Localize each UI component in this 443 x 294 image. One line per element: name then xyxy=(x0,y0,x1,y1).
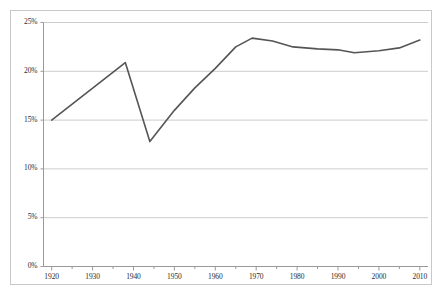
y-axis-tick-label: 10% xyxy=(8,164,38,172)
chart-plot-area xyxy=(0,0,443,294)
x-axis-tick-label: 1980 xyxy=(280,273,314,281)
gridlines-group xyxy=(44,23,429,267)
x-axis-tick-label: 1960 xyxy=(198,273,232,281)
series-line-1 xyxy=(52,38,420,141)
y-axis-tick-label: 5% xyxy=(8,213,38,221)
x-axis-tick-label: 2000 xyxy=(362,273,396,281)
chart-container: 0%5%10%15%20%25% 19201930194019501960197… xyxy=(0,0,443,294)
x-axis-tick-label: 1970 xyxy=(239,273,273,281)
x-axis-tick-label: 1950 xyxy=(157,273,191,281)
x-axis-tick-label: 1990 xyxy=(321,273,355,281)
axis-lines-group xyxy=(44,23,429,267)
y-axis-tick-label: 25% xyxy=(8,18,38,26)
x-axis-tick-label: 1920 xyxy=(35,273,69,281)
x-axis-tick-label: 1940 xyxy=(116,273,150,281)
x-axis-tick-label: 1930 xyxy=(76,273,110,281)
y-axis-tick-label: 15% xyxy=(8,116,38,124)
x-axis-tick-label: 2010 xyxy=(403,273,437,281)
data-series-group xyxy=(52,38,420,141)
y-axis-tick-label: 0% xyxy=(8,262,38,270)
tick-marks-group xyxy=(41,23,420,271)
y-axis-tick-label: 20% xyxy=(8,67,38,75)
